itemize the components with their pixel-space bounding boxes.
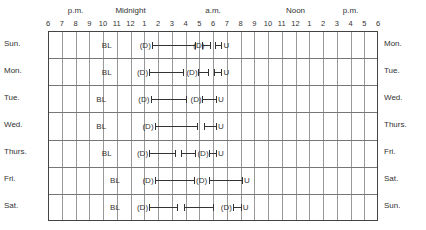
grid-hline xyxy=(49,58,377,59)
row-day-start: Thurs. xyxy=(4,147,27,156)
sleep-grid: BL(D)(D)UBL(D)(D)UBL(D)(D)UBL(D)UBL(D)(D… xyxy=(48,31,378,221)
drowsy-d-marker: (D) xyxy=(137,67,148,76)
hour-tick: 11 xyxy=(113,19,121,28)
row-day-end: Sat. xyxy=(384,174,398,183)
hour-tick: 2 xyxy=(321,19,325,28)
row-day-start: Sun. xyxy=(4,39,20,48)
grid-vline xyxy=(309,32,310,220)
row-day-end: Tue. xyxy=(384,66,400,75)
sleep-segment xyxy=(155,126,198,127)
hour-tick: 12 xyxy=(126,19,134,28)
sleep-segment xyxy=(198,72,209,73)
grid-vline xyxy=(131,32,132,220)
hour-tick: 6 xyxy=(376,19,380,28)
drowsy-d-marker: (D) xyxy=(196,176,207,185)
hour-tick: 4 xyxy=(348,19,352,28)
row-day-start: Wed. xyxy=(4,120,23,129)
hour-tick: 1 xyxy=(307,19,311,28)
sleep-segment xyxy=(155,180,195,181)
hour-tick: 7 xyxy=(225,19,229,28)
grid-vline xyxy=(337,32,338,220)
hour-tick: 4 xyxy=(183,19,187,28)
bedtime-bl-marker: BL xyxy=(110,176,120,185)
wake-up-u-marker: U xyxy=(223,67,229,76)
bedtime-bl-marker: BL xyxy=(96,94,106,103)
drowsy-d-marker: (D) xyxy=(191,94,202,103)
hour-tick: 6 xyxy=(211,19,215,28)
sleep-segment xyxy=(233,207,241,208)
bedtime-bl-marker: BL xyxy=(96,122,106,131)
grid-hline xyxy=(49,85,377,86)
grid-vline xyxy=(62,32,63,220)
hour-tick: 5 xyxy=(362,19,366,28)
sleep-segment xyxy=(202,45,212,46)
sleep-segment xyxy=(184,207,214,208)
sleep-segment xyxy=(149,153,175,154)
hour-tick: 9 xyxy=(87,19,91,28)
period-label: p.m. xyxy=(343,6,359,15)
grid-vline xyxy=(268,32,269,220)
hour-tick: 6 xyxy=(46,19,50,28)
hour-tick: 10 xyxy=(99,19,107,28)
drowsy-d-marker: (D) xyxy=(137,149,148,158)
grid-vline xyxy=(89,32,90,220)
drowsy-d-marker: (D) xyxy=(186,67,197,76)
grid-vline xyxy=(117,32,118,220)
grid-hline xyxy=(49,167,377,168)
bedtime-bl-marker: BL xyxy=(102,67,112,76)
sleep-segment xyxy=(149,72,183,73)
grid-vline xyxy=(364,32,365,220)
row-day-start: Sat. xyxy=(4,201,18,210)
hour-tick: 3 xyxy=(170,19,174,28)
hour-tick: 1 xyxy=(142,19,146,28)
grid-hline xyxy=(49,112,377,113)
hour-tick: 12 xyxy=(291,19,299,28)
drowsy-d-marker: (D) xyxy=(140,40,151,49)
sleep-segment xyxy=(214,72,222,73)
wake-up-u-marker: U xyxy=(218,94,224,103)
hour-tick: 5 xyxy=(197,19,201,28)
period-label: Midnight xyxy=(115,6,145,15)
grid-vline xyxy=(351,32,352,220)
grid-hline xyxy=(49,194,377,195)
drowsy-d-marker: (D) xyxy=(221,203,232,212)
hour-tick: 10 xyxy=(264,19,272,28)
grid-vline xyxy=(241,32,242,220)
sleep-segment xyxy=(209,153,217,154)
bedtime-bl-marker: BL xyxy=(102,40,112,49)
row-day-start: Mon. xyxy=(4,66,22,75)
period-label: p.m. xyxy=(68,6,84,15)
grid-vline xyxy=(76,32,77,220)
drowsy-d-marker: (D) xyxy=(138,94,149,103)
grid-vline xyxy=(282,32,283,220)
sleep-segment xyxy=(204,126,216,127)
hour-tick: 7 xyxy=(60,19,64,28)
sleep-segment xyxy=(151,99,187,100)
period-label: a.m. xyxy=(205,6,221,15)
sleep-segment xyxy=(209,180,243,181)
sleep-segment xyxy=(215,45,222,46)
row-day-start: Fri. xyxy=(4,174,16,183)
drowsy-d-marker: (D) xyxy=(142,122,153,131)
hour-tick: 8 xyxy=(238,19,242,28)
sleep-segment xyxy=(202,99,217,100)
grid-vline xyxy=(296,32,297,220)
sleep-segment xyxy=(149,207,178,208)
hour-tick: 8 xyxy=(73,19,77,28)
bedtime-bl-marker: BL xyxy=(110,203,120,212)
drowsy-d-marker: (D) xyxy=(142,176,153,185)
wake-up-u-marker: U xyxy=(244,176,250,185)
wake-up-u-marker: U xyxy=(218,122,224,131)
row-day-end: Fri. xyxy=(384,147,396,156)
row-day-end: Mon. xyxy=(384,39,402,48)
drowsy-d-marker: (D) xyxy=(197,149,208,158)
hour-tick: 9 xyxy=(252,19,256,28)
hour-tick: 11 xyxy=(278,19,286,28)
wake-up-u-marker: U xyxy=(243,203,249,212)
period-label: Noon xyxy=(286,6,305,15)
hour-tick: 2 xyxy=(156,19,160,28)
row-day-end: Thurs. xyxy=(384,120,407,129)
sleep-segment xyxy=(152,45,196,46)
wake-up-u-marker: U xyxy=(223,40,229,49)
row-day-end: Sun. xyxy=(384,201,400,210)
